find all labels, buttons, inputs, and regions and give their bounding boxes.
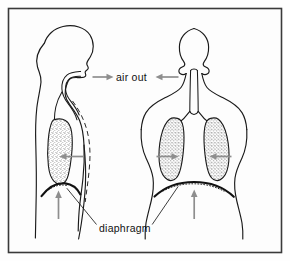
side-lung-stippled (48, 119, 73, 184)
diagram-canvas: air out diaphragm (0, 0, 290, 261)
air-out-label: air out (116, 71, 147, 83)
diaphragm-label: diaphragm (99, 222, 151, 234)
breathing-diagram: air out diaphragm (0, 0, 290, 261)
